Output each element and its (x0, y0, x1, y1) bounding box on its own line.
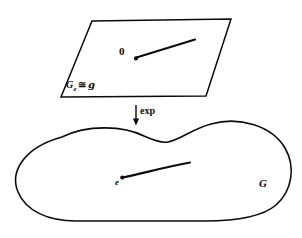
exp-arrow-label: exp (140, 106, 155, 116)
tangent-plane-origin-label: 0 (119, 46, 125, 57)
figure-canvas (0, 0, 302, 238)
lie-algebra-label: g (88, 79, 95, 90)
tangent-plane-label-subscript: e (73, 85, 76, 93)
identity-element-label: e (115, 178, 119, 187)
lie-group-label: G (259, 178, 267, 189)
one-parameter-subgroup-curve (123, 163, 191, 178)
lie-group-blob-group (16, 121, 292, 221)
tangent-vector-segment (137, 40, 196, 58)
exp-arrow-group (133, 105, 139, 126)
exp-arrow-head-icon (133, 119, 139, 126)
origin-dot (134, 56, 138, 60)
identity-dot (120, 176, 124, 180)
tangent-plane-label: Ge≅g (66, 80, 95, 93)
isomorphism-symbol: ≅ (78, 79, 86, 90)
figure-container: 0 Ge≅g exp e G (0, 0, 302, 238)
